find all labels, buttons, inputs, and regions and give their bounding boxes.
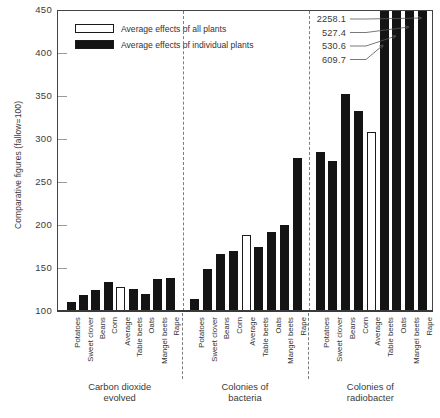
bar	[242, 235, 251, 311]
x-tick-label: Average	[123, 317, 132, 346]
bar	[203, 269, 212, 311]
bar	[293, 158, 302, 311]
y-tick-label: 250	[0, 176, 52, 187]
bar	[129, 289, 138, 311]
x-tick-label: Mangel beets	[286, 317, 295, 364]
x-tick-label: Potatoes	[322, 317, 331, 348]
bar	[328, 161, 337, 312]
group-title: Colonies of radiobacter	[308, 381, 433, 403]
bar	[141, 294, 150, 311]
legend-item-all-plants: Average effects of all plants	[75, 22, 254, 35]
x-tick-label: Average	[248, 317, 257, 346]
bar-offscale	[392, 10, 401, 311]
bar	[91, 290, 100, 311]
bar	[267, 232, 276, 311]
offscale-value-label: 530.6	[300, 41, 346, 51]
offscale-value-label: 2258.1	[300, 14, 346, 24]
bar	[354, 111, 363, 311]
offscale-value-label: 527.4	[300, 28, 346, 38]
group-separator	[183, 11, 184, 311]
x-tick-label: Oats	[399, 317, 408, 333]
bar	[116, 287, 125, 311]
x-tick-label: Potatoes	[73, 317, 82, 348]
bar	[166, 278, 175, 311]
group-separator-lower	[308, 313, 309, 379]
y-tick-label: 200	[0, 219, 52, 230]
bar-offscale	[405, 10, 414, 311]
x-tick-label: Table beets	[261, 317, 270, 357]
x-tick-label: Sweet clover	[210, 317, 219, 362]
group-title: Carbon dioxide evolved	[57, 381, 182, 403]
legend: Average effects of all plants Average ef…	[75, 22, 254, 54]
x-tick-label: Mangel beets	[160, 317, 169, 364]
x-tick-label: Beans	[98, 317, 107, 339]
x-tick-label: Mangel beets	[412, 317, 421, 364]
legend-swatch-filled-icon	[75, 40, 114, 49]
x-tick-label: Oats	[274, 317, 283, 333]
bar	[316, 152, 325, 311]
bar	[367, 132, 376, 311]
bar	[280, 225, 289, 311]
x-tick-label: Oats	[147, 317, 156, 333]
x-axis-labels: PotatoesSweet cloverBeansCornAverageTabl…	[0, 313, 440, 418]
bar	[216, 254, 225, 311]
x-tick-label: Table beets	[135, 317, 144, 357]
x-tick-label: Beans	[222, 317, 231, 339]
y-tick-label: 300	[0, 133, 52, 144]
offscale-value-label: 609.7	[300, 55, 346, 65]
legend-label-individual-plants: Average effects of individual plants	[121, 40, 254, 50]
bar-offscale	[418, 10, 427, 311]
legend-label-all-plants: Average effects of all plants	[121, 24, 226, 34]
y-tick-label: 350	[0, 90, 52, 101]
bar	[104, 282, 113, 311]
x-tick-label: Corn	[235, 317, 244, 334]
bar-offscale	[380, 10, 389, 311]
y-tick-label: 400	[0, 47, 52, 58]
x-tick-label: Rape	[172, 317, 181, 336]
x-tick-label: Corn	[361, 317, 370, 334]
legend-swatch-hollow-icon	[75, 24, 114, 33]
x-tick-label: Corn	[110, 317, 119, 334]
x-tick-label: Beans	[348, 317, 357, 339]
x-tick-label: Table beets	[386, 317, 395, 357]
bar	[79, 295, 88, 311]
bar	[229, 251, 238, 311]
x-axis-baseline	[57, 310, 433, 312]
bar	[341, 94, 350, 311]
x-tick-label: Potatoes	[197, 317, 206, 348]
legend-item-individual-plants: Average effects of individual plants	[75, 38, 254, 51]
bar	[153, 279, 162, 311]
x-tick-label: Sweet clover	[86, 317, 95, 362]
x-tick-label: Sweet clover	[335, 317, 344, 362]
plot-area	[57, 10, 433, 311]
bar-chart: Comparative figures (fallow=100) 1001502…	[0, 0, 440, 418]
bar	[254, 247, 263, 311]
x-tick-label: Average	[373, 317, 382, 346]
group-separator-lower	[182, 313, 183, 379]
group-title: Colonies of bacteria	[182, 381, 307, 403]
x-tick-label: Rape	[425, 317, 434, 336]
y-tick-label: 450	[0, 4, 52, 15]
y-tick-label: 150	[0, 262, 52, 273]
